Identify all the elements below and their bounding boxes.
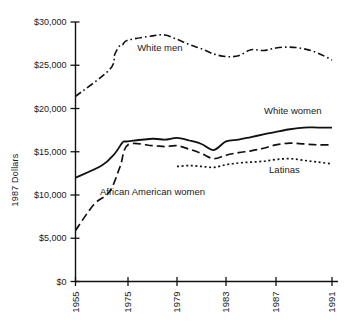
x-axis-tick-label: 1987 bbox=[270, 292, 281, 313]
x-axis-tick-label: 1979 bbox=[171, 292, 182, 313]
y-axis-tick-label: $25,000 bbox=[34, 60, 67, 70]
y-axis-tick-label: $30,000 bbox=[34, 17, 67, 27]
series-label-african-american-women: African American women bbox=[100, 186, 205, 197]
x-axis-tick-label: 1983 bbox=[220, 292, 231, 313]
series-label-white-men: White men bbox=[137, 42, 182, 53]
y-axis-tick-label: $5,000 bbox=[39, 233, 67, 243]
series-label-latinas: Latinas bbox=[269, 164, 300, 175]
series-label-white-women: White women bbox=[264, 105, 322, 116]
series-label-group: White menWhite womenAfrican American wom… bbox=[100, 42, 322, 196]
y-axis-tick-label: $15,000 bbox=[34, 147, 67, 157]
y-axis-tick-label: $0 bbox=[56, 277, 66, 287]
y-axis-tick-group: $30,000$25,000$20,000$15,000$10,000$5,00… bbox=[34, 17, 80, 287]
x-axis-tick-group: 195519751979198319871991 bbox=[70, 277, 338, 313]
x-axis-tick-label: 1955 bbox=[70, 292, 81, 313]
chart-figure: 1987 Dollars $30,000$25,000$20,000$15,00… bbox=[0, 0, 352, 332]
y-axis-title-text: 1987 Dollars bbox=[10, 153, 20, 206]
y-axis-tick-label: $10,000 bbox=[34, 190, 67, 200]
x-axis-tick-label: 1991 bbox=[326, 292, 337, 313]
income-trend-line-chart: 1987 Dollars $30,000$25,000$20,000$15,00… bbox=[0, 0, 352, 332]
series-line-latinas bbox=[177, 159, 332, 168]
y-axis-tick-label: $20,000 bbox=[34, 104, 67, 114]
series-line-white-men bbox=[76, 35, 333, 97]
x-axis-tick-label: 1975 bbox=[122, 292, 133, 313]
series-group bbox=[76, 35, 333, 231]
y-axis-title: 1987 Dollars bbox=[10, 153, 20, 206]
